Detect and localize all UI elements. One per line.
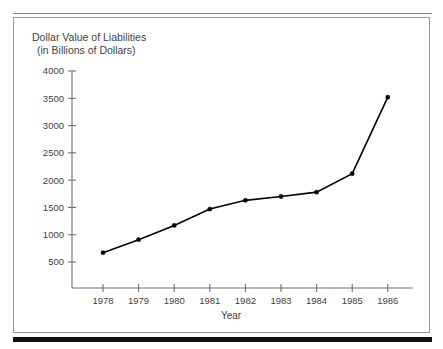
y-tick-label: 1500 [43, 202, 64, 213]
x-tick-label: 1979 [128, 295, 149, 306]
x-tick-label: 1981 [199, 295, 220, 306]
data-point-marker [172, 224, 176, 228]
y-tick-label: 3000 [43, 120, 64, 131]
line-chart: Dollar Value of Liabilities (in Billions… [0, 0, 443, 349]
series-line [103, 97, 388, 253]
data-point-marker [101, 251, 105, 255]
data-point-marker [350, 172, 354, 176]
y-tick-label: 500 [48, 256, 64, 267]
data-series [101, 95, 390, 254]
chart-svg: Dollar Value of Liabilities (in Billions… [0, 0, 443, 349]
data-point-marker [137, 238, 141, 242]
y-tick-label: 2000 [43, 175, 64, 186]
chart-title-line-2: (in Billions of Dollars) [37, 44, 136, 56]
x-tick-label: 1985 [342, 295, 363, 306]
data-point-marker [244, 198, 248, 202]
chart-title-line-1: Dollar Value of Liabilities [32, 31, 146, 43]
y-tick-label: 4000 [43, 65, 64, 76]
x-tick-label: 1980 [164, 295, 185, 306]
x-tick-label: 1982 [235, 295, 256, 306]
data-point-marker [279, 195, 283, 199]
x-tick-label: 1978 [92, 295, 113, 306]
x-axis-title: Year [221, 310, 242, 321]
x-tick-label: 1986 [377, 295, 398, 306]
data-point-marker [315, 190, 319, 194]
x-tick-label: 1984 [306, 295, 327, 306]
y-tick-label: 1000 [43, 229, 64, 240]
data-point-marker [386, 95, 390, 99]
x-axis: 197819791980198119821983198419851986 [72, 284, 413, 306]
y-tick-label: 3500 [43, 93, 64, 104]
y-axis: 5001000150020002500300035004000 [43, 65, 76, 288]
data-point-marker [208, 207, 212, 211]
x-tick-label: 1983 [270, 295, 291, 306]
y-tick-label: 2500 [43, 147, 64, 158]
bottom-decorative-bar [13, 337, 432, 342]
